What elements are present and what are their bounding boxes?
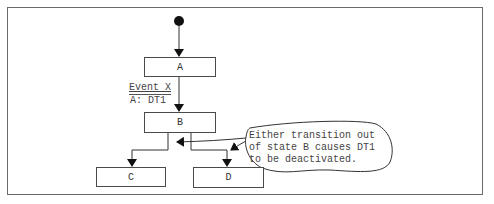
state-c[interactable]: C xyxy=(96,167,166,187)
transition-b-to-d xyxy=(191,132,227,166)
transition-b-to-c xyxy=(132,132,168,166)
state-b[interactable]: B xyxy=(144,112,216,133)
note-pointer-left xyxy=(177,138,246,142)
note-line-1: Either transition out xyxy=(249,130,375,142)
state-a[interactable]: A xyxy=(144,57,216,77)
state-d-label: D xyxy=(225,172,231,183)
initial-state-dot xyxy=(174,16,184,26)
transition-event-label: Event X xyxy=(129,82,171,94)
state-c-label: C xyxy=(128,172,134,183)
state-d[interactable]: D xyxy=(193,167,264,188)
transition-action-label: A: DT1 xyxy=(130,95,166,107)
note-pointer-right xyxy=(231,141,246,150)
state-b-label: B xyxy=(177,117,183,128)
event-action-divider xyxy=(129,94,171,95)
note-line-2: of state B causes DT1 xyxy=(249,142,375,154)
note-text: Either transition outof state B causes D… xyxy=(249,130,375,166)
note-line-3: to be deactivated. xyxy=(249,154,375,166)
state-a-label: A xyxy=(177,62,183,73)
